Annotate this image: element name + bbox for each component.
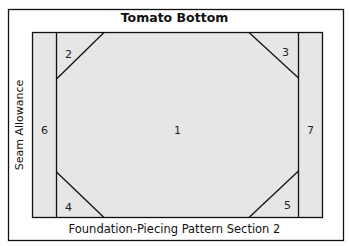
diagram-title: Tomato Bottom <box>0 10 349 25</box>
diagram-footer: Foundation-Piecing Pattern Section 2 <box>0 222 349 236</box>
piece-7-label: 7 <box>307 124 314 137</box>
piece-5-label: 5 <box>284 199 291 212</box>
piece-2-label: 2 <box>65 48 72 61</box>
piece-1-label: 1 <box>174 124 181 137</box>
pattern-diagram <box>0 0 349 246</box>
seam-allowance-label: Seam Allowance <box>13 80 26 171</box>
piece-4-label: 4 <box>65 201 72 214</box>
piece-3-label: 3 <box>282 46 289 59</box>
piece-6-label: 6 <box>41 124 48 137</box>
